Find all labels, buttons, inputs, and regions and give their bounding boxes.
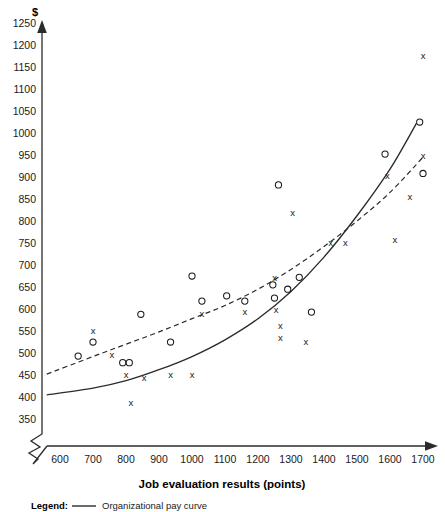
data-point-cross: x: [272, 272, 277, 283]
data-point-cross: x: [328, 237, 333, 248]
data-point-circle: [242, 298, 248, 304]
data-point-circle: [90, 339, 96, 345]
data-point-circle: [189, 273, 195, 279]
data-point-circle: [285, 286, 291, 292]
y-tick-label: 1050: [13, 105, 37, 117]
data-point-circle: [126, 360, 132, 366]
data-point-cross: x: [142, 372, 147, 383]
data-point-cross: x: [168, 369, 173, 380]
data-point-circle: [199, 298, 205, 304]
x-tick-label: 800: [117, 453, 135, 465]
curve-layer: [47, 123, 423, 394]
data-point-cross: x: [200, 308, 205, 319]
y-tick-label: 1150: [13, 61, 36, 73]
data-point-circle: [224, 293, 230, 299]
data-point-cross: x: [190, 369, 195, 380]
x-tick-label: 600: [51, 453, 69, 465]
y-tick-label: 600: [18, 303, 36, 315]
legend-entry-text: Organizational pay curve: [102, 500, 207, 511]
data-point-cross: x: [278, 320, 283, 331]
x-tick-label: 1400: [312, 453, 336, 465]
circle-marker-series: [75, 119, 426, 366]
data-point-cross: x: [124, 369, 129, 380]
data-point-circle: [296, 274, 302, 280]
data-point-circle: [417, 119, 423, 125]
data-point-cross: x: [343, 237, 348, 248]
data-point-cross: x: [242, 306, 247, 317]
x-tick-label: 1500: [345, 453, 369, 465]
data-point-cross: x: [274, 304, 279, 315]
y-tick-label: 1200: [13, 39, 37, 51]
x-tick-label: 1300: [279, 453, 303, 465]
y-tick-labels: 3504004505005506006507007508008509009501…: [13, 17, 37, 425]
y-tick-label: 700: [18, 259, 36, 271]
x-tick-label: 1000: [180, 453, 204, 465]
data-point-cross: x: [407, 191, 412, 202]
data-point-circle: [167, 339, 173, 345]
y-tick-label: 900: [18, 171, 36, 183]
y-tick-label: 800: [18, 215, 36, 227]
data-point-cross: x: [393, 234, 398, 245]
data-point-cross: x: [303, 336, 308, 347]
y-tick-label: 1250: [13, 17, 37, 29]
y-tick-label: 1100: [13, 83, 36, 95]
data-point-cross: x: [421, 50, 426, 61]
x-tick-label: 1200: [246, 453, 270, 465]
y-tick-label: 400: [18, 391, 36, 403]
data-point-cross: x: [91, 325, 96, 336]
data-point-circle: [138, 311, 144, 317]
data-point-circle: [75, 353, 81, 359]
data-point-circle: [420, 170, 426, 176]
y-tick-label: 850: [18, 193, 36, 205]
data-point-cross: x: [278, 332, 283, 343]
x-tick-label: 1700: [411, 453, 435, 465]
x-axis-arrow-icon: [425, 441, 438, 451]
x-axis: [47, 441, 438, 451]
pay-curve-chart: $ 35040045050055060065070075080085090095…: [0, 0, 445, 512]
data-point-circle: [382, 151, 388, 157]
x-axis-title: Job evaluation results (points): [139, 478, 306, 490]
y-tick-label: 1000: [13, 127, 37, 139]
data-point-cross: x: [129, 397, 134, 408]
legend-label: Legend:: [31, 500, 68, 511]
data-point-circle: [120, 360, 126, 366]
legend: Legend: Organizational pay curve: [31, 500, 207, 511]
cross-marker-series: xxxxxxxxxxxxxxxxxxxxxx: [91, 50, 426, 407]
y-tick-label: 950: [18, 149, 36, 161]
y-axis-arrow-icon: [37, 20, 47, 33]
data-point-circle: [308, 309, 314, 315]
data-point-cross: x: [290, 207, 295, 218]
y-tick-label: 550: [18, 325, 36, 337]
y-tick-label: 350: [18, 413, 36, 425]
x-tick-label: 1100: [214, 453, 237, 465]
axis-break-icon: [29, 428, 47, 464]
x-tick-label: 700: [84, 453, 102, 465]
chart-canvas: $ 35040045050055060065070075080085090095…: [0, 0, 445, 512]
data-point-circle: [275, 182, 281, 188]
y-tick-label: 650: [18, 281, 36, 293]
data-point-cross: x: [109, 349, 114, 360]
x-tick-label: 900: [150, 453, 168, 465]
x-tick-labels: 6007008009001000110012001300140015001600…: [51, 453, 435, 465]
y-tick-label: 450: [18, 369, 36, 381]
y-tick-label: 750: [18, 237, 36, 249]
data-point-circle: [271, 295, 277, 301]
y-tick-label: 500: [18, 347, 36, 359]
market-pay-curve: [47, 157, 423, 374]
data-point-cross: x: [385, 170, 390, 181]
organizational-pay-curve: [47, 123, 417, 394]
x-tick-label: 1600: [378, 453, 402, 465]
data-point-cross: x: [421, 150, 426, 161]
